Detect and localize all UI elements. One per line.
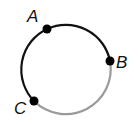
- point-c: [30, 97, 39, 106]
- arc-a-b: [47, 25, 110, 61]
- arc-b-c: [34, 61, 111, 114]
- label-b: B: [116, 53, 127, 72]
- label-a: A: [26, 7, 38, 26]
- circle-diagram: A B C: [0, 0, 138, 124]
- label-c: C: [14, 99, 27, 118]
- point-b: [106, 57, 115, 66]
- arc-c-a: [21, 29, 47, 101]
- point-a: [43, 25, 52, 34]
